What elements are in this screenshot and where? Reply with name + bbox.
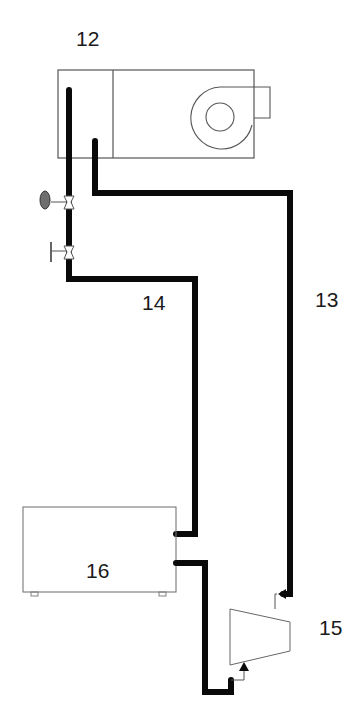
fan-hub-icon: [206, 103, 234, 131]
label-13: 13: [315, 289, 338, 310]
label-14: 14: [142, 292, 165, 313]
foot-icon: [159, 592, 166, 596]
label-12: 12: [76, 28, 99, 49]
compressor-icon: [230, 609, 290, 665]
unit-12-housing: [58, 70, 254, 158]
unit-12: [58, 70, 270, 158]
fan-volute-icon: [191, 87, 270, 149]
unit-16: [23, 507, 176, 596]
label-16: 16: [86, 560, 109, 581]
valve-icon: [64, 246, 74, 259]
foot-icon: [31, 592, 38, 596]
sensor-icon: [40, 191, 50, 209]
label-15: 15: [319, 617, 342, 638]
system-diagram: [0, 0, 363, 725]
arrow-up-icon: [239, 662, 249, 671]
compressor-15: [230, 609, 290, 665]
arrow-left-icon: [278, 589, 286, 599]
pipe-14: [69, 90, 195, 534]
